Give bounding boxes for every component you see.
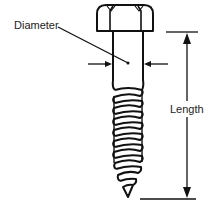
screw-shank: [113, 31, 144, 90]
length-label: Length: [170, 103, 204, 115]
length-dimension: [140, 32, 198, 199]
screw-head: [97, 5, 153, 31]
diameter-center-dot: [127, 62, 130, 65]
diameter-leader-line: [58, 27, 128, 63]
diameter-label: Diameter: [14, 19, 59, 31]
screw-threads: [113, 88, 142, 197]
